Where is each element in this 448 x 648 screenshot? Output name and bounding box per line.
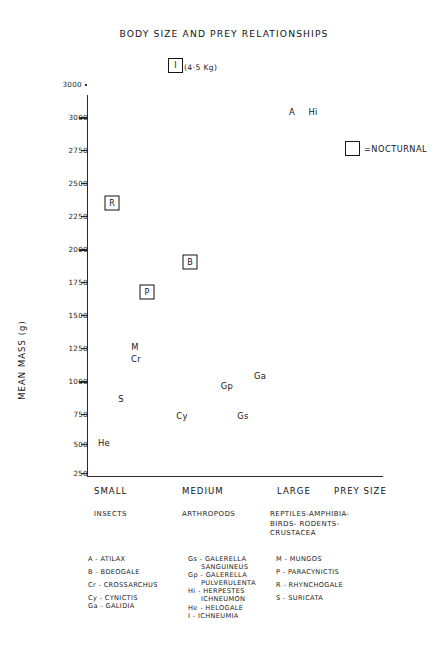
prey-group-large-line1: REPTILES-AMPHIBIA-: [270, 510, 350, 520]
x-category-large: LARGE: [277, 486, 311, 496]
key-name-P: PARACYNICTIS: [288, 568, 339, 576]
data-point-A: A: [289, 107, 295, 117]
key-entry-B: B - BDEOGALE: [88, 569, 188, 577]
key-code-R: R: [276, 581, 281, 589]
key-code-I: I: [188, 612, 190, 620]
key-code-Cr: Cr: [88, 581, 96, 589]
data-point-Gp: Gp: [221, 381, 233, 391]
key-code-Ga: Ga: [88, 602, 98, 610]
prey-group-small: INSECTS: [94, 510, 127, 520]
key-code-Gp: Gp: [188, 571, 198, 579]
y-tick-label-2000: 2000: [52, 245, 88, 254]
data-point-Cy: Cy: [176, 411, 187, 421]
species-key-column-3: M - MUNGOS P - PARACYNICTIS R - RHYNCHOG…: [276, 556, 386, 608]
key-entry-Ga: Ga - GALIDIA: [88, 603, 188, 611]
y-tick-label-750: 750: [52, 410, 88, 419]
data-point-Cr: Cr: [131, 354, 141, 364]
y-tick-label-250: 250: [52, 469, 88, 478]
key-entry-Gs: Gs - GALERELLA SANGUINEUS: [188, 556, 280, 572]
key-entry-M: M - MUNGOS: [276, 556, 386, 564]
key-name-I: ICHNEUMIA: [198, 612, 239, 620]
prey-group-large-line2: BIRDS- RODENTS-: [270, 520, 350, 530]
y-tick-label-3000: 3000: [52, 113, 88, 122]
key-code-B: B: [88, 568, 93, 576]
prey-group-medium-line1: ARTHROPODS: [182, 510, 235, 520]
data-point-Hi: Hi: [308, 107, 317, 117]
key-code-He: He: [188, 604, 198, 612]
y-tick-label-1750: 1750: [52, 278, 88, 287]
y-tick-label-1250: 1250: [52, 344, 88, 353]
species-key-column-1: A - ATILAX B - BDEOGALE Cr - CROSSARCHUS…: [88, 556, 188, 616]
scatter-plot: 3000 3000 2750 2500 2250 2000 1750 1500 …: [0, 0, 448, 648]
x-category-medium: MEDIUM: [182, 486, 224, 496]
key-entry-R: R - RHYNCHOGALE: [276, 582, 386, 590]
key-name-A: ATILAX: [101, 555, 126, 563]
x-category-small: SMALL: [94, 486, 127, 496]
key-entry-Cr: Cr - CROSSARCHUS: [88, 582, 188, 590]
prey-group-small-line1: INSECTS: [94, 510, 127, 520]
data-point-He: He: [98, 438, 110, 448]
key-entry-I: I - ICHNEUMIA: [188, 613, 280, 621]
data-point-P: P: [140, 285, 155, 300]
key-entry-Hi: Hi - HERPESTES ICHNEUMON: [188, 588, 280, 604]
y-tick-label-2750: 2750: [52, 146, 88, 155]
nocturnal-swatch-icon: [345, 141, 360, 156]
prey-group-large: REPTILES-AMPHIBIA- BIRDS- RODENTS- CRUST…: [270, 510, 350, 539]
data-point-R: R: [105, 196, 120, 211]
figure-page: BODY SIZE AND PREY RELATIONSHIPS I (4·5 …: [0, 0, 448, 648]
nocturnal-legend-label: =NOCTURNAL: [364, 144, 427, 154]
y-axis-label: MEAN MASS (g): [17, 300, 27, 420]
y-tick-label-500: 500: [52, 440, 88, 449]
key-name-B: BDEOGALE: [101, 568, 140, 576]
key-name-Ga: GALIDIA: [106, 602, 135, 610]
key-entry-S: S - SURICATA: [276, 595, 386, 603]
y-tick-label-2500: 2500: [52, 179, 88, 188]
key-name-Gs: GALERELLA: [205, 555, 246, 563]
y-tick-label-2250: 2250: [52, 212, 88, 221]
key-name-M: MUNGOS: [290, 555, 322, 563]
y-tick-label-1500: 1500: [52, 311, 88, 320]
key-entry-P: P - PARACYNICTIS: [276, 569, 386, 577]
key-code-M: M: [276, 555, 282, 563]
key-code-Gs: Gs: [188, 555, 197, 563]
data-point-B: B: [183, 255, 198, 270]
key-name-Gp: GALERELLA: [206, 571, 247, 579]
key-name-He: HELOGALE: [205, 604, 243, 612]
y-axis-top-dot: [85, 84, 87, 86]
key-code-A: A: [88, 555, 93, 563]
key-code-S: S: [276, 594, 281, 602]
prey-group-medium: ARTHROPODS: [182, 510, 235, 520]
data-point-Gs: Gs: [237, 411, 248, 421]
key-entry-Gp: Gp - GALERELLA PULVERULENTA: [188, 572, 280, 588]
x-axis-label: PREY SIZE: [334, 486, 387, 496]
key-name-Hi: HERPESTES: [203, 587, 245, 595]
prey-group-large-line3: CRUSTACEA: [270, 529, 350, 539]
data-point-S: S: [118, 394, 124, 404]
nocturnal-legend: =NOCTURNAL: [345, 141, 427, 156]
x-axis-line: [87, 476, 383, 477]
key-name-R: RHYNCHOGALE: [289, 581, 344, 589]
data-point-M: M: [131, 342, 139, 352]
key-name-S: SURICATA: [288, 594, 323, 602]
key-code-Cy: Cy: [88, 594, 97, 602]
key-entry-A: A - ATILAX: [88, 556, 188, 564]
y-tick-label-3000-top: 3000: [46, 80, 82, 89]
species-key-column-2: Gs - GALERELLA SANGUINEUS Gp - GALERELLA…: [188, 556, 280, 626]
key-code-P: P: [276, 568, 280, 576]
key-name-Cr: CROSSARCHUS: [104, 581, 158, 589]
data-point-Ga: Ga: [254, 371, 266, 381]
key-name-Cy: CYNICTIS: [105, 594, 138, 602]
key-code-Hi: Hi: [188, 587, 196, 595]
y-tick-label-1000: 1000: [52, 377, 88, 386]
